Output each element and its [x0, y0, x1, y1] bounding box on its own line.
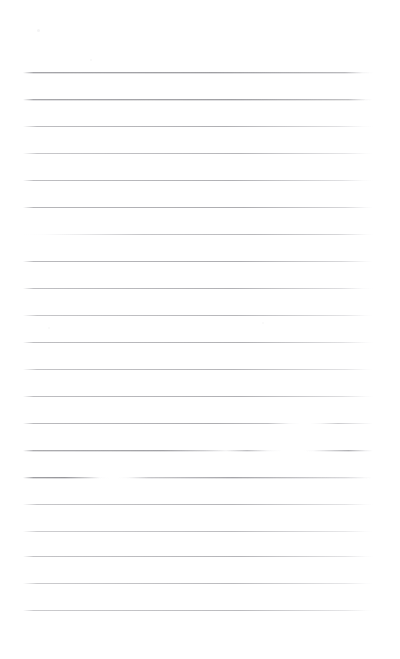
ruled-line: [23, 610, 373, 611]
ruled-line: [23, 315, 373, 316]
scan-speck: [90, 59, 92, 61]
scan-speck: [262, 322, 264, 324]
ruled-line: [23, 72, 373, 73]
ruled-line: [23, 126, 373, 127]
ruled-line: [23, 583, 373, 584]
scanned-page: [0, 0, 400, 659]
scan-speck: [48, 327, 50, 329]
ruled-line: [23, 180, 373, 181]
ruled-line: [23, 207, 373, 208]
ruled-line: [23, 99, 373, 100]
ruled-line: [23, 153, 373, 154]
ruled-line: [23, 450, 373, 451]
ruled-line: [23, 477, 373, 478]
ruled-line: [23, 504, 373, 505]
page-edge-shading: [0, 0, 400, 659]
ruled-line: [23, 261, 373, 262]
ruled-line: [23, 234, 373, 235]
ruled-line: [23, 342, 373, 343]
ruled-line: [23, 531, 373, 532]
ruled-line: [23, 369, 373, 370]
ruled-line: [23, 396, 373, 397]
scan-speck: [37, 29, 40, 32]
ruled-line: [23, 556, 373, 557]
ruled-line: [23, 288, 373, 289]
ruled-line: [23, 423, 373, 424]
